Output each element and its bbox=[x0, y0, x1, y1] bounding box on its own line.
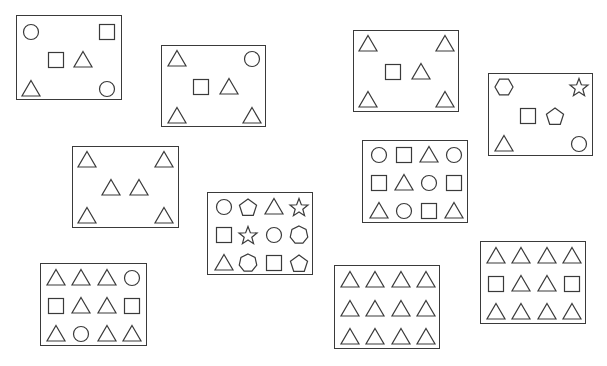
shape-panel bbox=[40, 263, 147, 346]
square-icon bbox=[422, 204, 437, 219]
shape-panel bbox=[488, 73, 593, 156]
square-icon bbox=[521, 109, 536, 124]
circle-icon bbox=[125, 271, 140, 286]
triangle-icon bbox=[487, 248, 505, 264]
triangle-icon bbox=[436, 36, 454, 52]
triangle-icon bbox=[436, 92, 454, 108]
star-icon bbox=[290, 199, 308, 216]
triangle-icon bbox=[265, 199, 283, 215]
square-icon bbox=[397, 148, 412, 163]
triangle-icon bbox=[417, 272, 435, 288]
triangle-icon bbox=[22, 81, 40, 97]
circle-icon bbox=[447, 148, 462, 163]
triangle-icon bbox=[417, 329, 435, 345]
circle-icon bbox=[217, 200, 232, 215]
star-icon bbox=[239, 227, 257, 244]
triangle-icon bbox=[512, 276, 530, 292]
shape-panel bbox=[362, 140, 468, 223]
triangle-icon bbox=[155, 152, 173, 168]
triangle-icon bbox=[102, 180, 120, 196]
shape-panel bbox=[207, 192, 313, 275]
square-icon bbox=[125, 299, 140, 314]
triangle-icon bbox=[47, 326, 65, 342]
pentagon-icon bbox=[239, 199, 256, 215]
triangle-icon bbox=[392, 272, 410, 288]
circle-icon bbox=[372, 148, 387, 163]
shape-panels-diagram bbox=[0, 0, 607, 366]
triangle-icon bbox=[243, 108, 261, 124]
triangle-icon bbox=[220, 79, 238, 95]
square-icon bbox=[100, 25, 115, 40]
circle-icon bbox=[572, 137, 587, 152]
triangle-icon bbox=[495, 136, 513, 152]
square-icon bbox=[565, 277, 580, 292]
circle-icon bbox=[245, 52, 260, 67]
triangle-icon bbox=[512, 304, 530, 320]
triangle-icon bbox=[98, 270, 116, 286]
shape-panel bbox=[161, 45, 266, 127]
heptagon-icon bbox=[239, 254, 257, 271]
triangle-icon bbox=[420, 147, 438, 163]
triangle-icon bbox=[341, 272, 359, 288]
triangle-icon bbox=[341, 329, 359, 345]
triangle-icon bbox=[47, 270, 65, 286]
square-icon bbox=[194, 80, 209, 95]
triangle-icon bbox=[417, 301, 435, 317]
triangle-icon bbox=[512, 248, 530, 264]
square-icon bbox=[447, 176, 462, 191]
circle-icon bbox=[267, 228, 282, 243]
triangle-icon bbox=[563, 304, 581, 320]
triangle-icon bbox=[359, 36, 377, 52]
triangle-icon bbox=[366, 272, 384, 288]
heptagon-icon bbox=[290, 226, 308, 243]
triangle-icon bbox=[538, 248, 556, 264]
triangle-icon bbox=[538, 276, 556, 292]
shape-panel bbox=[334, 265, 440, 349]
shape-panel bbox=[16, 15, 122, 100]
shape-panel bbox=[72, 146, 179, 228]
triangle-icon bbox=[215, 255, 233, 271]
square-icon bbox=[217, 228, 232, 243]
square-icon bbox=[489, 277, 504, 292]
triangle-icon bbox=[98, 298, 116, 314]
triangle-icon bbox=[359, 92, 377, 108]
triangle-icon bbox=[366, 301, 384, 317]
circle-icon bbox=[100, 82, 115, 97]
triangle-icon bbox=[74, 52, 92, 68]
triangle-icon bbox=[366, 329, 384, 345]
shape-panel bbox=[480, 241, 586, 324]
hexagon-icon bbox=[495, 79, 513, 95]
triangle-icon bbox=[78, 152, 96, 168]
circle-icon bbox=[422, 176, 437, 191]
pentagon-icon bbox=[290, 255, 307, 271]
triangle-icon bbox=[168, 108, 186, 124]
square-icon bbox=[49, 299, 64, 314]
triangle-icon bbox=[392, 329, 410, 345]
square-icon bbox=[386, 65, 401, 80]
triangle-icon bbox=[341, 301, 359, 317]
triangle-icon bbox=[72, 270, 90, 286]
triangle-icon bbox=[155, 208, 173, 224]
square-icon bbox=[372, 176, 387, 191]
star-icon bbox=[570, 79, 588, 96]
square-icon bbox=[49, 53, 64, 68]
triangle-icon bbox=[370, 203, 388, 219]
triangle-icon bbox=[563, 248, 581, 264]
triangle-icon bbox=[168, 51, 186, 67]
shape-panel bbox=[353, 30, 459, 112]
triangle-icon bbox=[78, 208, 96, 224]
triangle-icon bbox=[395, 175, 413, 191]
triangle-icon bbox=[487, 304, 505, 320]
triangle-icon bbox=[412, 64, 430, 80]
square-icon bbox=[267, 256, 282, 271]
triangle-icon bbox=[538, 304, 556, 320]
triangle-icon bbox=[392, 301, 410, 317]
circle-icon bbox=[74, 327, 89, 342]
triangle-icon bbox=[130, 180, 148, 196]
triangle-icon bbox=[445, 203, 463, 219]
triangle-icon bbox=[123, 326, 141, 342]
circle-icon bbox=[397, 204, 412, 219]
triangle-icon bbox=[98, 326, 116, 342]
circle-icon bbox=[24, 25, 39, 40]
triangle-icon bbox=[72, 298, 90, 314]
